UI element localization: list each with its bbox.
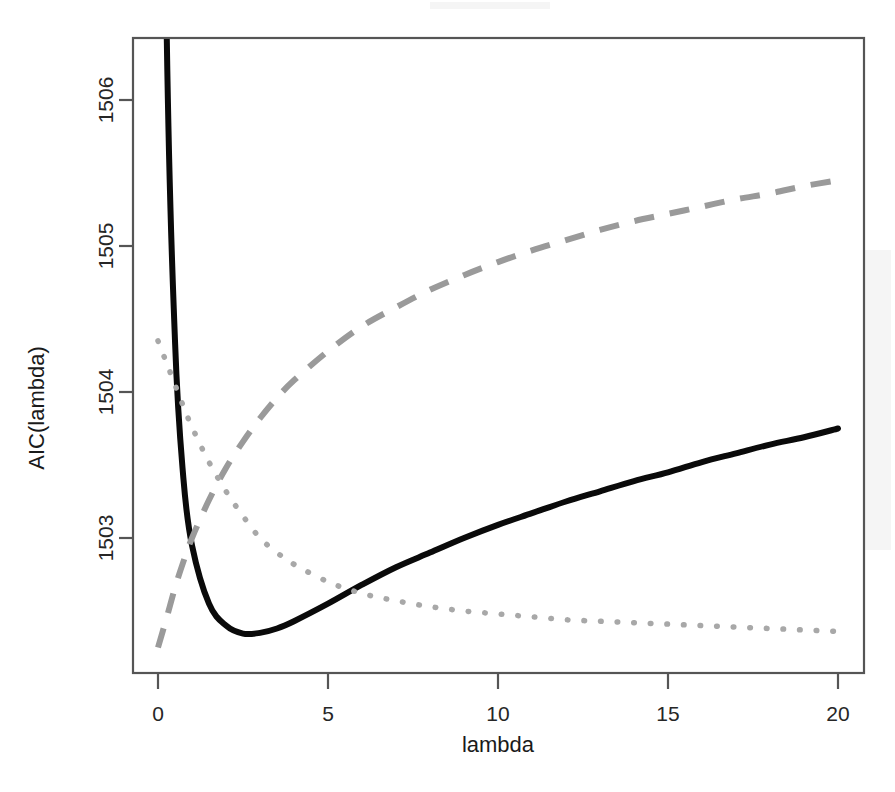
chart-figure: 1503150415051506 05101520 lambda AIC(lam… <box>0 0 895 792</box>
scan-smudge <box>430 2 550 9</box>
x-axis-tick-label: 5 <box>322 702 334 725</box>
x-axis-tick-label: 20 <box>826 702 849 725</box>
x-axis-tick-label: 0 <box>152 702 164 725</box>
y-axis-ticks <box>119 100 133 538</box>
x-axis-title: lambda <box>462 732 535 757</box>
y-axis-tick-label: 1505 <box>94 223 117 270</box>
x-axis-tick-label: 10 <box>486 702 509 725</box>
scan-artifact-group <box>430 2 891 550</box>
y-axis-tick-label: 1506 <box>94 77 117 124</box>
scan-smudge <box>865 250 891 550</box>
y-axis-tick-labels: 1503150415051506 <box>94 77 117 562</box>
x-axis-ticks <box>158 673 838 689</box>
y-axis-tick-label: 1504 <box>94 368 117 415</box>
x-axis-tick-labels: 05101520 <box>152 702 850 725</box>
plot-frame-box <box>133 38 864 673</box>
y-axis-tick-label: 1503 <box>94 515 117 562</box>
aic-lambda-line-chart: 1503150415051506 05101520 lambda AIC(lam… <box>0 0 895 792</box>
y-axis-title: AIC(lambda) <box>24 346 49 469</box>
data-series-solid <box>158 0 838 634</box>
x-axis-tick-label: 15 <box>656 702 679 725</box>
data-series-group <box>158 0 838 648</box>
data-series-dashed <box>158 180 838 647</box>
data-series-dotted <box>158 341 838 632</box>
